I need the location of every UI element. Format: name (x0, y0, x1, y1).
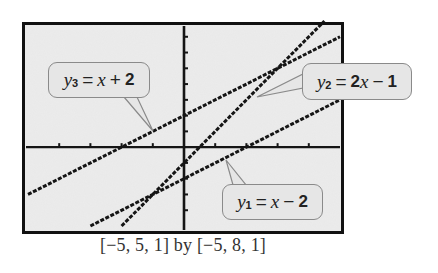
callout-y3-num: 2 (125, 70, 134, 90)
callout-y3-var: y (64, 69, 72, 91)
callout-y3-op: + (110, 69, 121, 91)
callout-y2: y2 = 2x − 1 (302, 63, 412, 100)
window-settings-caption: [−5, 5, 1] by [−5, 8, 1] (0, 235, 366, 256)
callout-y2-rhs-var: x (360, 71, 368, 93)
callout-y3-eq: = (82, 69, 93, 91)
callout-y3-sub: 3 (72, 77, 78, 89)
callout-y3-rhs-var: x (97, 69, 105, 91)
callout-y1: y1 = x − 2 (222, 184, 323, 220)
callout-y1-rhs-var: x (271, 191, 279, 213)
callout-y1-var: y (237, 191, 245, 213)
callout-y2-coef: 2 (351, 72, 360, 92)
callout-y1-eq: = (256, 191, 267, 213)
callout-y2-var: y (317, 71, 325, 93)
graph-screen (0, 0, 438, 273)
callout-y3: y3 = x + 2 (48, 62, 150, 98)
callout-y2-sub: 2 (325, 79, 331, 91)
callout-y1-op: − (283, 191, 294, 213)
calculator-graph-figure: y3 = x + 2 y2 = 2x − 1 y1 = x − 2 [−5, 5… (0, 0, 438, 273)
callout-y1-sub: 1 (246, 199, 252, 211)
callout-y2-eq: = (335, 71, 346, 93)
callout-y1-num: 2 (298, 192, 307, 212)
callout-y2-op: − (373, 71, 384, 93)
callout-y2-num: 1 (388, 72, 397, 92)
